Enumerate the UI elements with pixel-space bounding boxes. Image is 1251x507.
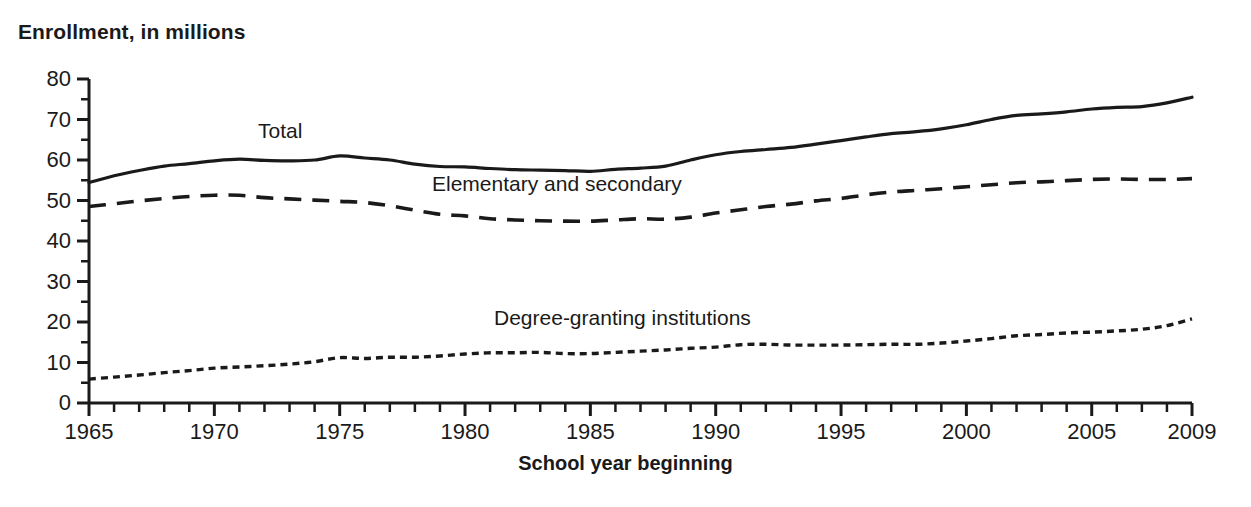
series-label-degree-granting-institutions: Degree-granting institutions xyxy=(494,307,751,328)
x-tick-label: 1995 xyxy=(796,421,886,443)
series-label-total: Total xyxy=(258,120,302,141)
y-tick-label: 40 xyxy=(11,230,71,252)
y-axis-ticks xyxy=(77,79,89,403)
axis-lines xyxy=(89,79,1192,403)
y-tick-label: 70 xyxy=(11,109,71,131)
y-tick-label: 10 xyxy=(11,352,71,374)
series-lines xyxy=(89,97,1192,379)
x-tick-label: 1990 xyxy=(671,421,761,443)
x-tick-label: 2000 xyxy=(921,421,1011,443)
x-tick-label: 1970 xyxy=(169,421,259,443)
x-tick-label: 1985 xyxy=(545,421,635,443)
x-tick-label: 1975 xyxy=(295,421,385,443)
y-tick-label: 50 xyxy=(11,190,71,212)
y-axis-title: Enrollment, in millions xyxy=(18,20,246,44)
y-tick-label: 30 xyxy=(11,271,71,293)
x-tick-label: 2009 xyxy=(1147,421,1237,443)
y-tick-label: 20 xyxy=(11,311,71,333)
x-tick-label: 1965 xyxy=(44,421,134,443)
x-axis-title: School year beginning xyxy=(0,452,1251,475)
series-line-total xyxy=(89,97,1192,182)
y-tick-label: 80 xyxy=(11,68,71,90)
y-tick-label: 60 xyxy=(11,149,71,171)
y-tick-label: 0 xyxy=(11,392,71,414)
x-tick-label: 1980 xyxy=(420,421,510,443)
series-label-elementary-and-secondary: Elementary and secondary xyxy=(432,173,682,194)
x-tick-label: 2005 xyxy=(1047,421,1137,443)
enrollment-line-chart: Enrollment, in millions 0102030405060708… xyxy=(0,0,1251,507)
x-axis-ticks xyxy=(89,403,1192,416)
